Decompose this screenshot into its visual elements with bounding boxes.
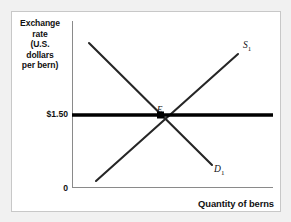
figure-frame: Exchange rate (U.S. dollars per bern) $1…: [11, 11, 281, 212]
plot-area: Exchange rate (U.S. dollars per bern) $1…: [12, 12, 282, 213]
equilibrium-point-label: E: [157, 104, 163, 114]
supply-curve-label-subscript: 1: [248, 45, 252, 53]
curves-svg: [12, 12, 282, 213]
supply-curve: [96, 54, 238, 181]
demand-curve-label: D1: [214, 164, 224, 177]
demand-curve-label-letter: D: [214, 164, 221, 174]
x-axis-label: Quantity of berns: [132, 198, 274, 209]
demand-curve-label-subscript: 1: [221, 169, 225, 177]
supply-curve-label: S1: [243, 40, 251, 53]
demand-curve: [89, 43, 212, 165]
